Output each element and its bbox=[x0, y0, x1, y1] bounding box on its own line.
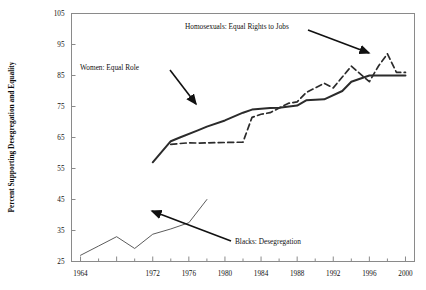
y-tick-label: 25 bbox=[57, 258, 65, 266]
y-tick-label: 105 bbox=[54, 10, 65, 18]
annotation-blacks-label: Blacks: Desegregation bbox=[235, 237, 301, 246]
y-tick-label: 45 bbox=[57, 196, 65, 204]
y-tick-label: 35 bbox=[57, 227, 65, 235]
x-tick-label: 1964 bbox=[73, 270, 88, 278]
chart-container: 2535455565758595105 19641972197619801984… bbox=[0, 0, 426, 290]
x-tick-label: 2000 bbox=[398, 270, 413, 278]
y-axis-title: Percent Supporting Desegregation and Equ… bbox=[7, 61, 16, 212]
x-tick-label: 1980 bbox=[218, 270, 233, 278]
x-tick-label: 1996 bbox=[362, 270, 377, 278]
y-tick-label: 95 bbox=[57, 41, 65, 49]
y-tick-label: 75 bbox=[57, 103, 65, 111]
x-tick-label: 1972 bbox=[146, 270, 161, 278]
annotation-women-label: Women: Equal Role bbox=[80, 63, 139, 72]
y-tick-label: 55 bbox=[57, 165, 65, 173]
x-tick-label: 1988 bbox=[290, 270, 305, 278]
y-tick-label: 65 bbox=[57, 134, 65, 142]
x-tick-label: 1992 bbox=[326, 270, 341, 278]
y-tick-label: 85 bbox=[57, 72, 65, 80]
annotation-homosexuals-label: Homosexuals: Equal Rights to Jobs bbox=[185, 22, 289, 31]
x-tick-label: 1976 bbox=[182, 270, 197, 278]
x-tick-label: 1984 bbox=[254, 270, 269, 278]
line-chart: 2535455565758595105 19641972197619801984… bbox=[0, 0, 426, 290]
